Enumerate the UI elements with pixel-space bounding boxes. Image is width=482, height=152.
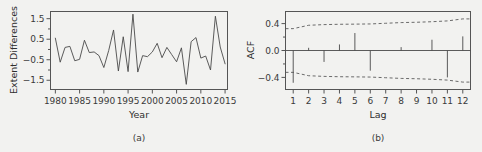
panel-a-data-line [55, 14, 225, 84]
panel-a-x-tick-label: 1980 [44, 96, 67, 106]
panel-b-x-tick-label: 12 [457, 96, 468, 106]
panel-b-x-tick-label: 6 [367, 96, 373, 106]
panel-b-svg: −0.40.00.4 123456789101112 ACF Lag (b) [241, 0, 482, 152]
panel-b-bars [293, 33, 463, 83]
panel-a-x-axis-title: Year [128, 109, 149, 120]
panel-b-y-tick-label: 0.4 [265, 19, 280, 29]
panel-b-x-tick-label: 11 [442, 96, 453, 106]
panel-b-x-tick-label: 4 [337, 96, 343, 106]
panel-a-x-tick-label: 1990 [92, 96, 115, 106]
panel-b-confidence-upper [286, 19, 471, 29]
panel-a-x-tick-label: 2010 [189, 96, 212, 106]
panel-b-y-tick-label: −0.4 [258, 73, 280, 83]
figure-root: −1.5−0.50.51.5 1980198519901995200020052… [0, 0, 482, 152]
panel-b-tick-marks [282, 24, 463, 94]
panel-a-time-series: −1.5−0.50.51.5 1980198519901995200020052… [0, 0, 241, 152]
panel-b-x-tick-label: 5 [352, 96, 358, 106]
panel-b-y-tick-label: 0.0 [265, 46, 280, 56]
panel-b-x-tick-label: 9 [414, 96, 420, 106]
panel-b-x-tick-label: 8 [398, 96, 404, 106]
panel-b-x-tick-label: 1 [290, 96, 296, 106]
panel-a-plot-frame [51, 12, 228, 90]
panel-b-confidence-lower [286, 72, 471, 82]
panel-a-x-tick-label: 2015 [214, 96, 237, 106]
panel-b-x-tick-label: 3 [321, 96, 327, 106]
panel-a-y-tick-label: 0.5 [30, 34, 44, 44]
panel-a-y-tick-label: −0.5 [23, 55, 45, 65]
panel-b-y-tick-labels: −0.40.00.4 [258, 19, 280, 83]
panel-b-x-tick-label: 10 [426, 96, 438, 106]
panel-b-x-axis-title: Lag [369, 109, 386, 120]
panel-a-x-tick-label: 1985 [68, 96, 91, 106]
panel-a-x-tick-labels: 19801985199019952000200520102015 [44, 96, 237, 106]
panel-a-y-tick-label: 1.5 [30, 14, 44, 24]
panel-a-y-tick-labels: −1.5−0.50.51.5 [23, 14, 45, 86]
panel-a-y-tick-label: −1.5 [23, 75, 45, 85]
panel-b-x-tick-labels: 123456789101112 [290, 96, 468, 106]
panel-a-y-axis-title: Extent Differences [8, 6, 19, 94]
panel-a-x-tick-label: 2000 [141, 96, 164, 106]
panel-b-x-tick-label: 2 [306, 96, 312, 106]
panel-b-x-tick-label: 7 [383, 96, 389, 106]
panel-a-caption: (a) [133, 133, 146, 143]
panel-a-x-tick-label: 2005 [165, 96, 188, 106]
panel-b-acf: −0.40.00.4 123456789101112 ACF Lag (b) [241, 0, 482, 152]
panel-a-x-tick-label: 1995 [117, 96, 140, 106]
panel-b-caption: (b) [372, 133, 385, 143]
panel-b-y-axis-title: ACF [245, 41, 256, 59]
panel-a-svg: −1.5−0.50.51.5 1980198519901995200020052… [0, 0, 241, 152]
